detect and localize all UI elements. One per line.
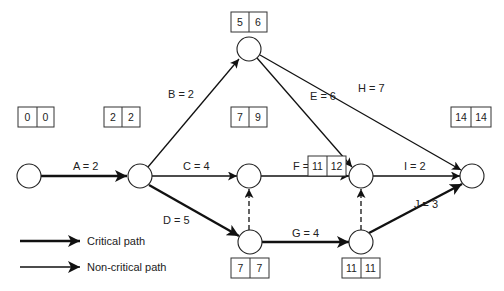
earliest-time: 2 [110, 111, 116, 123]
activity-b-arrow [148, 59, 239, 167]
earliest-time: 7 [238, 262, 244, 274]
activity-arrows [41, 55, 462, 242]
latest-time: 12 [331, 160, 343, 172]
activity-labels: A = 2 B = 2 C = 4 D = 5 E = 6 H = 7 F = … [73, 82, 438, 239]
earliest-time: 11 [312, 160, 323, 172]
event-node [349, 164, 373, 188]
latest-time: 6 [255, 16, 261, 28]
earliest-time: 5 [237, 16, 243, 28]
latest-time: 9 [255, 111, 261, 123]
activity-d-arrow [149, 185, 239, 236]
activity-label: E = 6 [310, 90, 336, 102]
activity-label: B = 2 [168, 88, 194, 100]
latest-time: 2 [128, 111, 134, 123]
event-node [349, 230, 373, 254]
latest-time: 0 [43, 111, 49, 123]
activity-label: H = 7 [358, 82, 385, 94]
latest-time: 14 [475, 111, 487, 123]
activity-label: I = 2 [404, 160, 426, 172]
activity-h-arrow [260, 55, 461, 170]
event-nodes [17, 37, 484, 254]
activity-label: A = 2 [73, 160, 98, 172]
event-node [128, 164, 152, 188]
legend-critical-label: Critical path [87, 235, 145, 247]
event-node [17, 164, 41, 188]
earliest-time: 7 [237, 111, 243, 123]
event-node [238, 230, 262, 254]
critical-path-network-diagram: A = 2 B = 2 C = 4 D = 5 E = 6 H = 7 F = … [0, 0, 504, 291]
activity-label: J = 3 [414, 198, 438, 210]
activity-e-arrow [257, 58, 352, 167]
earliest-time: 14 [455, 111, 467, 123]
legend-noncritical-label: Non-critical path [87, 261, 166, 273]
event-node [237, 37, 261, 61]
legend: Critical path Non-critical path [20, 235, 166, 273]
earliest-time: 11 [346, 262, 357, 274]
activity-label: C = 4 [183, 160, 210, 172]
latest-time: 11 [365, 262, 376, 274]
earliest-time: 0 [25, 111, 31, 123]
event-node [237, 164, 261, 188]
activity-label: D = 5 [163, 214, 190, 226]
event-node [460, 164, 484, 188]
latest-time: 7 [257, 262, 263, 274]
activity-label: G = 4 [292, 227, 319, 239]
